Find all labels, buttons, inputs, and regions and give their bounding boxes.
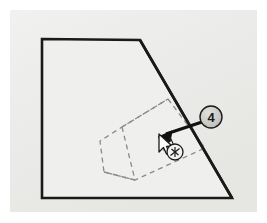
callout-balloon-label: 4 (207, 110, 215, 125)
osnap-indicator (167, 144, 183, 160)
cad-figure: 4 (0, 0, 267, 223)
figure-root: 4 (0, 0, 267, 223)
callout-balloon-4[interactable]: 4 (200, 106, 222, 128)
